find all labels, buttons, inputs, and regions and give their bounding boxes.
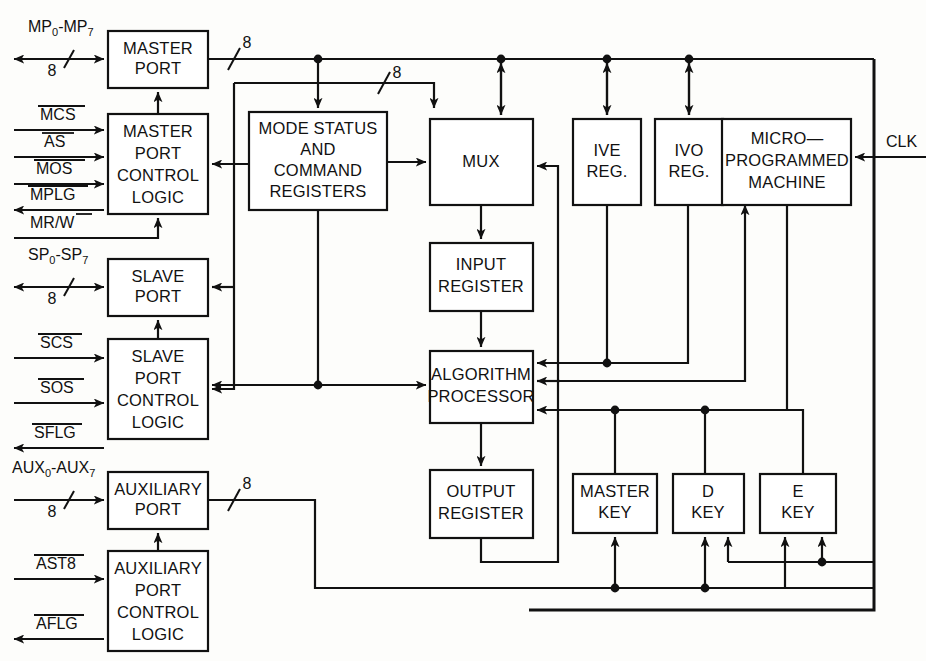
block-input-register[interactable]: INPUT REGISTER — [430, 243, 533, 311]
signal-label-sflg: SFLG — [34, 424, 76, 441]
block-mode-status-command-registers[interactable]: MODE STATUS AND COMMAND REGISTERS — [249, 112, 387, 210]
block-label: PORT — [135, 581, 181, 599]
wire-keybus-to-ekey — [705, 410, 803, 474]
signal-label-aflg: AFLG — [36, 615, 78, 632]
block-label: PORT — [135, 144, 181, 162]
wire-ivo-to-algproc — [537, 205, 745, 381]
block-diagram-canvas: MASTER PORT MASTER PORT CONTROL LOGIC MO… — [0, 0, 926, 661]
block-micro-programmed-machine[interactable]: MICRO— PROGRAMMED MACHINE — [722, 119, 851, 205]
block-label: OUTPUT — [446, 482, 515, 500]
bus-width-aux-out: 8 — [243, 475, 252, 492]
block-label: MICRO— — [751, 129, 824, 147]
block-master-port[interactable]: MASTER PORT — [108, 31, 208, 88]
block-slave-port-control-logic[interactable]: SLAVE PORT CONTROL LOGIC — [108, 339, 208, 439]
signal-label-mos: MOS — [36, 160, 72, 177]
block-label: REGISTERS — [269, 182, 366, 200]
signal-label-aux-bus: AUX0-AUX7 — [12, 459, 95, 479]
block-label: LOGIC — [132, 625, 184, 643]
block-label: AUXILIARY — [114, 559, 202, 577]
block-label: AUXILIARY — [114, 480, 202, 498]
block-label: PROGRAMMED — [725, 151, 849, 169]
block-label: IVO — [674, 141, 703, 159]
bus-width-sp: 8 — [48, 290, 57, 307]
block-slave-port[interactable]: SLAVE PORT — [108, 259, 208, 316]
block-label: LOGIC — [132, 413, 184, 431]
signal-label-mcs: MCS — [40, 106, 76, 123]
block-label: MODE STATUS — [259, 119, 378, 137]
block-label: KEY — [781, 503, 815, 521]
block-label: MASTER — [580, 482, 650, 500]
block-ive-reg[interactable]: IVE REG. — [573, 119, 641, 205]
signal-label-mrw: MR/W — [30, 214, 75, 231]
block-label: MASTER — [123, 39, 193, 57]
signal-label-sp-bus: SP0-SP7 — [28, 246, 88, 266]
block-auxiliary-port[interactable]: AUXILIARY PORT — [108, 472, 208, 529]
blocks: MASTER PORT MASTER PORT CONTROL LOGIC MO… — [108, 31, 851, 651]
wire-mode-to-spcl — [212, 214, 234, 389]
bus-width-aux-in: 8 — [48, 503, 57, 520]
junction-top-ivo — [685, 55, 694, 64]
block-label: PORT — [135, 369, 181, 387]
junction-top-ive — [603, 55, 612, 64]
block-label: SLAVE — [132, 347, 185, 365]
block-e-key[interactable]: E KEY — [760, 474, 836, 533]
block-label: E — [792, 482, 803, 500]
block-output-register[interactable]: OUTPUT REGISTER — [430, 470, 533, 538]
bus-width-mp-out: 8 — [243, 34, 252, 51]
block-label: INPUT — [456, 255, 507, 273]
block-label: ALGORITHM — [431, 365, 531, 383]
block-label: KEY — [598, 503, 632, 521]
block-label: PROCESSOR — [427, 387, 534, 405]
block-label: PORT — [135, 59, 181, 77]
block-label: MACHINE — [748, 173, 826, 191]
block-label: REG. — [586, 162, 627, 180]
block-label: REGISTER — [438, 277, 524, 295]
block-label: SLAVE — [132, 267, 185, 285]
signal-label-sos: SOS — [40, 379, 74, 396]
block-label: D — [702, 482, 714, 500]
block-auxiliary-port-control-logic[interactable]: AUXILIARY PORT CONTROL LOGIC — [108, 551, 208, 651]
junction-top-mux — [497, 55, 506, 64]
signal-label-clk: CLK — [886, 133, 917, 150]
wire-ive-ivo-link — [607, 205, 688, 363]
block-master-key[interactable]: MASTER KEY — [573, 474, 657, 533]
signal-labels: MP0-MP7 MCS AS MOS MPLG MR/W SP0-SP7 SCS… — [12, 18, 917, 632]
wire-ive-to-algproc — [537, 205, 607, 363]
block-label: CONTROL — [117, 391, 199, 409]
block-label: CONTROL — [117, 603, 199, 621]
block-label: MUX — [462, 152, 499, 170]
signal-label-mp-bus: MP0-MP7 — [28, 18, 94, 38]
block-label: PORT — [135, 500, 181, 518]
block-label: AND — [300, 140, 335, 158]
signal-label-scs: SCS — [40, 334, 73, 351]
block-ivo-reg[interactable]: IVO REG. — [655, 119, 723, 205]
wire-mode-to-mux-top — [234, 83, 434, 108]
block-mux[interactable]: MUX — [430, 119, 533, 205]
block-label: COMMAND — [274, 161, 362, 179]
block-label: REG. — [668, 162, 709, 180]
bus-width-mux-in: 8 — [393, 64, 402, 81]
block-label: IVE — [593, 141, 620, 159]
block-d-key[interactable]: D KEY — [673, 474, 744, 533]
signal-label-ast8: AST8 — [36, 555, 76, 572]
wire-micro-to-algproc — [537, 205, 787, 410]
block-label: REGISTER — [438, 504, 524, 522]
block-label: MASTER — [123, 122, 193, 140]
signal-label-mplg: MPLG — [30, 186, 75, 203]
block-label: KEY — [691, 503, 725, 521]
signal-label-as: AS — [44, 133, 65, 150]
diagram-svg: MASTER PORT MASTER PORT CONTROL LOGIC MO… — [0, 0, 926, 661]
block-label: LOGIC — [132, 188, 184, 206]
block-algorithm-processor[interactable]: ALGORITHM PROCESSOR — [427, 351, 534, 423]
block-master-port-control-logic[interactable]: MASTER PORT CONTROL LOGIC — [108, 114, 208, 214]
block-label: PORT — [135, 287, 181, 305]
block-label: CONTROL — [117, 166, 199, 184]
bus-width-mp: 8 — [48, 62, 57, 79]
